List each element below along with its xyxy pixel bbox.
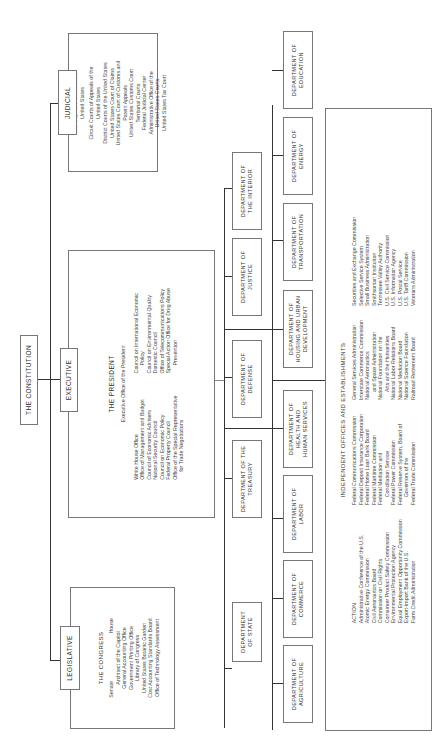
dept-transportation[interactable]: DEPARTMENT OF TRANSPORTATION (283, 203, 313, 281)
dept-line: DEPARTMENT OF (291, 488, 298, 540)
independent-content: INDEPENDENT OFFICES AND ESTABLISHMENTS A… (338, 216, 415, 623)
dept-line: COMMERCE (298, 573, 305, 625)
agency-item: Small Business Administration (363, 216, 370, 305)
dept-label: DEPARTMENT OF THE INTERIOR (240, 165, 254, 217)
agency-item: Smithsonian Institution (370, 216, 377, 305)
agency-item: Selective Service System (357, 216, 364, 305)
congress-item: Government Printing Office (127, 618, 134, 698)
dept-hud[interactable]: DEPARTMENT OF HOUSING AND URBAN DEVELOPM… (283, 290, 313, 368)
dept-line: HUMAN SERVICES (302, 401, 309, 457)
executive-label: EXECUTIVE (65, 360, 73, 400)
agency-item: Veterans Administration (409, 216, 416, 305)
dept-label: DEPARTMENT OF STATE (240, 611, 254, 653)
agency-item: National Aeronautics (363, 319, 370, 399)
dept-line: DEPARTMENT OF (291, 44, 298, 96)
dept-line: OF STATE (247, 611, 254, 653)
dept-energy[interactable]: DEPARTMENT OF ENERGY (283, 117, 313, 195)
agency-item: Federal Home Loan Bank Board (363, 414, 370, 505)
dept-crossbar-2 (224, 329, 272, 330)
agency-item: Atomic Energy Commission (363, 519, 370, 623)
court-item: Circuit Courts of Appeals of the (88, 60, 95, 145)
dept-interior[interactable]: DEPARTMENT OF THE INTERIOR (232, 152, 262, 230)
agency-item: Railroad Retirement Board (409, 319, 416, 399)
dept-line: DEFENSE (247, 353, 254, 405)
agency-item: and Space Administration (370, 319, 377, 399)
tick (272, 240, 283, 241)
chambers-row: Senate House (107, 618, 114, 698)
dept-line: ENERGY (298, 130, 305, 182)
congress-content: THE CONGRESS Senate House Architect of t… (96, 618, 159, 698)
tick (272, 155, 283, 156)
agency-item: U.S. Postal Service (396, 216, 403, 305)
court-item: United States (78, 60, 85, 145)
dept-label: DEPARTMENT OF HEALTH AND HUMAN SERVICES (288, 401, 309, 457)
dept-crossbar (224, 428, 272, 429)
dept-treasury[interactable]: DEPARTMENT OF THE TREASURY (232, 440, 262, 518)
agency-item: General Services Administration (350, 319, 357, 399)
agency-item: Arts and the Humanities (383, 319, 390, 399)
court-item: United States Customs Court (128, 60, 135, 145)
dept-line: AGRICULTURE (298, 658, 305, 710)
congress-item: Cost Accounting Standards Board (146, 618, 153, 698)
dept-label: DEPARTMENT OF ENERGY (291, 130, 305, 182)
executive-right-list: Council on International Economic Policy… (132, 288, 178, 373)
judicial-content-box: The Supreme Court of the United States C… (68, 33, 158, 172)
dept-hhs[interactable]: DEPARTMENT OF HEALTH AND HUMAN SERVICES (283, 390, 313, 468)
constitution-label: THE CONSTITUTION (25, 345, 33, 415)
dept-label: DEPARTMENT OF EDUCATION (291, 44, 305, 96)
agency-item: Farm Credit Administration (409, 519, 416, 623)
senate-label: Senate (107, 681, 114, 698)
dept-label: DEPARTMENT OF JUSTICE (240, 251, 254, 303)
constitution-box[interactable]: THE CONSTITUTION (20, 335, 38, 425)
court-item: United States Court of Customs and (115, 60, 122, 145)
independent-col-3: General Services Administration Intersta… (350, 319, 415, 399)
congress-item: General Accounting Office (120, 618, 127, 698)
judicial-box[interactable]: JUDICIAL (58, 70, 77, 135)
exec-item: Office of Management and Budget (138, 395, 145, 479)
agency-item: Federal Reserve System, Board of (396, 414, 403, 505)
executive-left-list: White House Office Office of Management … (132, 395, 184, 479)
dept-agriculture[interactable]: DEPARTMENT OF AGRICULTURE (283, 645, 313, 723)
dept-line: DEPARTMENT OF (288, 295, 295, 362)
independent-col-4: Securities and Exchange Commission Selec… (350, 216, 415, 305)
exec-item: Office of the Special Representative (171, 395, 178, 479)
constitution-connector (38, 379, 60, 380)
tick (272, 428, 283, 429)
independent-offices-box: INDEPENDENT OFFICES AND ESTABLISHMENTS A… (325, 108, 432, 731)
agency-item: Administrative Conference of the U.S. (357, 519, 364, 623)
agency-item: ACTION (350, 519, 357, 623)
dept-education[interactable]: DEPARTMENT OF EDUCATION (283, 31, 313, 109)
congress-item: United States Botanic Garden (140, 618, 147, 698)
dept-line: TREASURY (247, 446, 254, 513)
dept-labor[interactable]: DEPARTMENT OF LABOR (283, 475, 313, 553)
executive-content-box: THE PRESIDENT Executive Office of the Pr… (68, 250, 215, 518)
agency-item: Federal Maritime Commission (370, 414, 377, 505)
dept-row-b-spine (272, 105, 273, 730)
dept-label: DEPARTMENT OF AGRICULTURE (291, 658, 305, 710)
dept-line: DEVELOPMENT (302, 295, 309, 362)
dept-line: DEPARTMENT (240, 611, 247, 653)
agency-item: Federal Mediation and (376, 414, 383, 505)
dept-state[interactable]: DEPARTMENT OF STATE (232, 602, 262, 662)
executive-office-content: THE PRESIDENT Executive Office of the Pr… (107, 288, 184, 480)
independent-col-1: ACTION Administrative Conference of the … (350, 519, 415, 623)
agency-item: Conciliation Service (383, 414, 390, 505)
exec-item: White House Office (132, 395, 139, 479)
congress-title: THE CONGRESS (96, 618, 104, 698)
independent-title: INDEPENDENT OFFICES AND ESTABLISHMENTS (338, 216, 346, 623)
legislative-box[interactable]: LEGISLATIVE (60, 626, 80, 690)
dept-justice[interactable]: DEPARTMENT OF JUSTICE (232, 238, 262, 316)
agency-item: Governors of the (402, 414, 409, 505)
judicial-courts-list: The Supreme Court of the United States C… (72, 60, 167, 145)
tick (224, 668, 232, 669)
exec-item: Domestic Council (151, 288, 158, 373)
agency-item: National Mediation Board (396, 319, 403, 399)
tick (272, 518, 283, 519)
dept-commerce[interactable]: DEPARTMENT OF COMMERCE (283, 560, 313, 638)
legislative-label: LEGISLATIVE (66, 635, 74, 680)
agency-item: Commission on Civil Rights (376, 519, 383, 623)
tick (272, 70, 283, 71)
dept-row-a-spine (224, 188, 225, 728)
dept-defense[interactable]: DEPARTMENT OF DEFENSE (232, 340, 262, 418)
executive-box[interactable]: EXECUTIVE (60, 348, 78, 412)
